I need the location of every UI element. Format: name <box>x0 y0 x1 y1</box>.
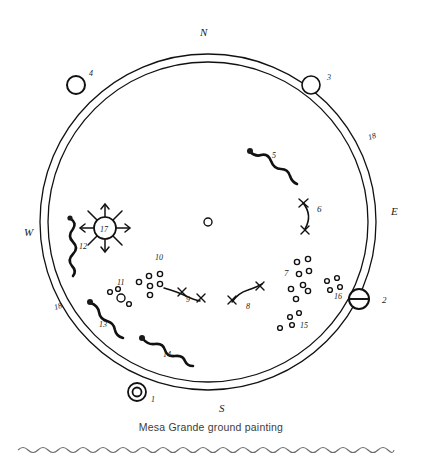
feature-17-sun: 17 <box>80 204 130 252</box>
feature-label-15: 15 <box>300 321 308 330</box>
feature-7-dot-cluster: 7 <box>284 256 312 301</box>
feature-label-1: 1 <box>151 395 155 404</box>
feature-9-curve: 9 <box>164 288 205 304</box>
cardinal-label-south: S <box>219 402 225 414</box>
feature-label-16: 16 <box>334 292 342 301</box>
feature-label-18-west: 18 <box>53 301 63 312</box>
cardinal-label-west: W <box>24 226 34 238</box>
feature-label-4: 4 <box>89 69 93 78</box>
feature-label-14: 14 <box>163 350 171 359</box>
feature-label-6: 6 <box>317 204 322 214</box>
cardinal-label-east: E <box>390 205 398 217</box>
feature-14-snake: 14 <box>139 335 193 366</box>
feature-label-9: 9 <box>186 295 190 304</box>
feature-11-dot-cluster: 11 <box>108 278 132 306</box>
feature-6-crescent: 6 <box>299 199 322 234</box>
feature-5-snake: 5 <box>247 148 297 184</box>
feature-label-17: 17 <box>100 225 109 234</box>
feature-label-3: 3 <box>326 73 331 82</box>
feature-4-open-circle: 4 <box>67 69 93 94</box>
feature-15-dot-cluster: 15 <box>278 311 308 331</box>
feature-label-12: 12 <box>79 242 87 251</box>
feature-label-13: 13 <box>99 320 107 329</box>
bottom-wavy-rule <box>18 448 394 453</box>
feature-label-7: 7 <box>284 268 289 278</box>
center-hole-mark <box>204 218 212 226</box>
ground-painting-diagram: N E S W 18 18 4 3 2 1 <box>0 0 422 459</box>
cardinal-label-north: N <box>199 26 208 38</box>
feature-8-curve: 8 <box>228 282 264 311</box>
feature-label-5: 5 <box>272 151 276 160</box>
feature-10-dot-cluster: 10 <box>136 253 163 298</box>
feature-label-18-east: 18 <box>367 131 377 142</box>
feature-label-2: 2 <box>382 295 387 305</box>
feature-3-open-circle: 3 <box>302 73 331 94</box>
feature-label-11: 11 <box>117 278 124 287</box>
figure-root: N E S W 18 18 4 3 2 1 <box>0 0 422 459</box>
feature-2-barred-circle: 2 <box>349 289 387 309</box>
feature-label-8: 8 <box>246 302 250 311</box>
feature-label-10: 10 <box>155 253 163 262</box>
feature-1-double-ring: 1 <box>128 383 155 404</box>
figure-caption: Mesa Grande ground painting <box>0 421 422 433</box>
feature-16-dot-cluster: 16 <box>325 276 343 301</box>
